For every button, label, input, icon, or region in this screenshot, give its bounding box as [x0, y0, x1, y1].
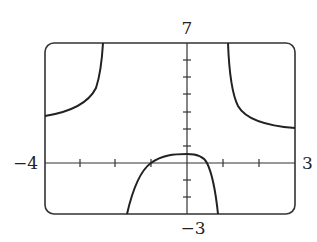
viewing-window-frame — [45, 43, 295, 214]
curve-right-branch — [228, 43, 295, 128]
xmin-label: −4 — [13, 153, 38, 173]
xmax-label: 3 — [302, 153, 313, 173]
ymax-label: 7 — [182, 18, 193, 38]
curve-left-branch — [45, 43, 103, 116]
graphing-calculator-plot: 7 −3 −4 3 — [0, 0, 317, 242]
ymin-label: −3 — [180, 218, 205, 238]
